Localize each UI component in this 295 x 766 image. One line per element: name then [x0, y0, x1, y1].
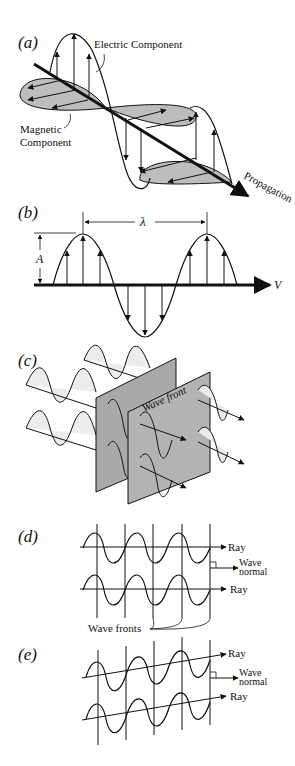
magnetic-lobe-3	[140, 161, 232, 184]
velocity-label: V	[274, 278, 283, 292]
panel-c: (c) Wave front	[18, 345, 244, 504]
propagation-label: Propagation	[242, 169, 295, 205]
panel-b-label: (b)	[18, 203, 38, 222]
electric-component-label: Electric Component	[94, 38, 182, 50]
wave-fronts-label: Wave fronts	[88, 622, 141, 634]
panel-d: (d) Ray Wave normal Ray Wave fronts	[18, 524, 268, 634]
ray-label-e-bottom: Ray	[230, 690, 248, 702]
panel-a-label: (a)	[18, 33, 38, 52]
ray-label-d-top: Ray	[228, 541, 246, 553]
magnetic-label-line2: Component	[20, 136, 71, 148]
wave-diagram: (a) Electric Component Magnetic Componen…	[0, 0, 295, 766]
panel-c-label: (c)	[18, 351, 37, 370]
panel-e-label: (e)	[18, 645, 37, 664]
panel-a: (a) Electric Component Magnetic Componen…	[18, 33, 295, 205]
amplitude-label: A	[35, 252, 44, 266]
wave-normal-d-2: normal	[239, 566, 268, 577]
wavelength-label: λ	[139, 214, 146, 229]
panel-b: (b) λ A V	[18, 203, 283, 337]
panel-e: (e) Ray Wave normal Ray	[18, 637, 268, 745]
magnetic-label-line1: Magnetic	[20, 123, 62, 135]
ray-label-e-top: Ray	[228, 647, 246, 659]
wave-normal-e-2: normal	[239, 676, 268, 687]
ray-label-d-bottom: Ray	[230, 583, 248, 595]
panel-d-label: (d)	[18, 527, 38, 546]
